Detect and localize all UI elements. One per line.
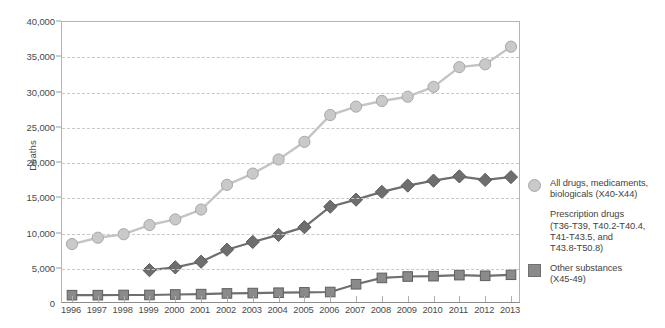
- x-tick-mark: [459, 296, 460, 302]
- deaths-line-chart: Deaths 05,00010,00015,00020,00025,00030,…: [0, 0, 665, 328]
- data-point-square: [377, 273, 387, 283]
- data-point-circle: [66, 238, 77, 249]
- x-tick-mark: [227, 296, 228, 302]
- data-point-circle: [428, 81, 439, 92]
- x-tick-label: 2001: [190, 305, 210, 315]
- data-point-square: [506, 270, 516, 280]
- y-tick-label: 15,000: [3, 192, 55, 203]
- x-tick-label: 2004: [268, 305, 288, 315]
- gridline: [62, 93, 519, 94]
- data-point-circle: [144, 219, 155, 230]
- series-line: [72, 47, 511, 244]
- data-point-diamond: [169, 261, 182, 274]
- data-point-diamond: [401, 179, 414, 192]
- data-point-square: [403, 272, 413, 282]
- plot-area: [61, 21, 520, 303]
- data-point-diamond: [504, 171, 517, 184]
- data-point-circle: [325, 109, 336, 120]
- series-line: [72, 275, 511, 295]
- diamond-marker-icon: [528, 210, 542, 224]
- data-point-circle: [480, 59, 491, 70]
- data-point-diamond: [427, 174, 440, 187]
- gridline: [62, 234, 519, 235]
- x-tick-label: 2005: [293, 305, 313, 315]
- x-tick-mark: [304, 296, 305, 302]
- data-point-circle: [170, 214, 181, 225]
- gridline: [62, 269, 519, 270]
- data-point-square: [480, 271, 490, 281]
- x-tick-mark: [149, 296, 150, 302]
- data-point-circle: [247, 168, 258, 179]
- x-tick-mark: [511, 296, 512, 302]
- y-tick-label: 40,000: [3, 16, 55, 27]
- x-tick-label: 2011: [449, 305, 468, 315]
- legend-item-prescription-drugs[interactable]: Prescription drugs (T36-T39, T40.2-T40.4…: [528, 209, 665, 254]
- series-group: [143, 170, 518, 277]
- data-point-diamond: [349, 193, 362, 206]
- x-tick-mark: [72, 296, 73, 302]
- x-tick-label: 2009: [397, 305, 417, 315]
- x-tick-label: 2013: [500, 305, 520, 315]
- legend-item-label: All drugs, medicaments, biologicals (X40…: [550, 178, 665, 200]
- data-point-square: [429, 271, 439, 281]
- data-point-circle: [505, 41, 516, 52]
- x-tick-label: 1999: [138, 305, 158, 315]
- x-tick-label: 2002: [216, 305, 236, 315]
- gridline: [62, 57, 519, 58]
- legend-item-label: Prescription drugs (T36-T39, T40.2-T40.4…: [550, 209, 665, 254]
- legend-item-all-drugs[interactable]: All drugs, medicaments, biologicals (X40…: [528, 178, 665, 200]
- x-tick-mark: [124, 296, 125, 302]
- data-point-circle: [454, 62, 465, 73]
- data-point-diamond: [246, 235, 259, 248]
- x-tick-mark: [175, 296, 176, 302]
- data-point-diamond: [375, 185, 388, 198]
- data-point-diamond: [272, 228, 285, 241]
- x-tick-mark: [382, 296, 383, 302]
- x-tick-label: 1996: [61, 305, 81, 315]
- x-tick-mark: [434, 296, 435, 302]
- x-tick-label: 2012: [474, 305, 494, 315]
- x-tick-label: 2000: [164, 305, 184, 315]
- x-tick-mark: [408, 296, 409, 302]
- y-tick-label: 10,000: [3, 227, 55, 238]
- data-point-circle: [299, 136, 310, 147]
- y-axis-ticks: 05,00010,00015,00020,00025,00030,00035,0…: [0, 0, 55, 328]
- series-line: [149, 176, 511, 270]
- data-point-circle: [376, 95, 387, 106]
- square-marker-icon: [528, 264, 541, 277]
- x-tick-mark: [253, 296, 254, 302]
- data-point-square: [455, 270, 465, 280]
- x-tick-label: 2008: [371, 305, 391, 315]
- y-tick-label: 35,000: [3, 51, 55, 62]
- data-point-diamond: [143, 264, 156, 277]
- y-tick-label: 0: [3, 298, 55, 309]
- y-tick-label: 5,000: [3, 262, 55, 273]
- data-point-diamond: [220, 243, 233, 256]
- x-tick-mark: [485, 296, 486, 302]
- x-tick-mark: [98, 296, 99, 302]
- y-tick-label: 20,000: [3, 157, 55, 168]
- gridline: [62, 163, 519, 164]
- x-tick-label: 2010: [422, 305, 442, 315]
- x-axis-labels: 1996199719981999200020012002200320042005…: [61, 305, 520, 321]
- x-tick-mark: [201, 296, 202, 302]
- legend-item-other-substances[interactable]: Other substances (X45-49): [528, 263, 665, 285]
- x-tick-mark: [279, 296, 280, 302]
- data-point-circle: [196, 204, 207, 215]
- data-point-diamond: [195, 255, 208, 268]
- chart-legend: All drugs, medicaments, biologicals (X40…: [528, 178, 665, 295]
- data-point-circle: [221, 179, 232, 190]
- x-tick-mark: [330, 296, 331, 302]
- x-tick-label: 2007: [345, 305, 365, 315]
- x-tick-label: 1998: [113, 305, 133, 315]
- x-tick-label: 2003: [242, 305, 262, 315]
- y-tick-label: 30,000: [3, 86, 55, 97]
- data-point-diamond: [453, 170, 466, 183]
- data-point-square: [351, 279, 361, 289]
- y-tick-label: 25,000: [3, 121, 55, 132]
- data-point-diamond: [479, 173, 492, 186]
- series-group: [66, 41, 516, 250]
- x-tick-mark: [356, 296, 357, 302]
- data-point-circle: [350, 101, 361, 112]
- gridline: [62, 128, 519, 129]
